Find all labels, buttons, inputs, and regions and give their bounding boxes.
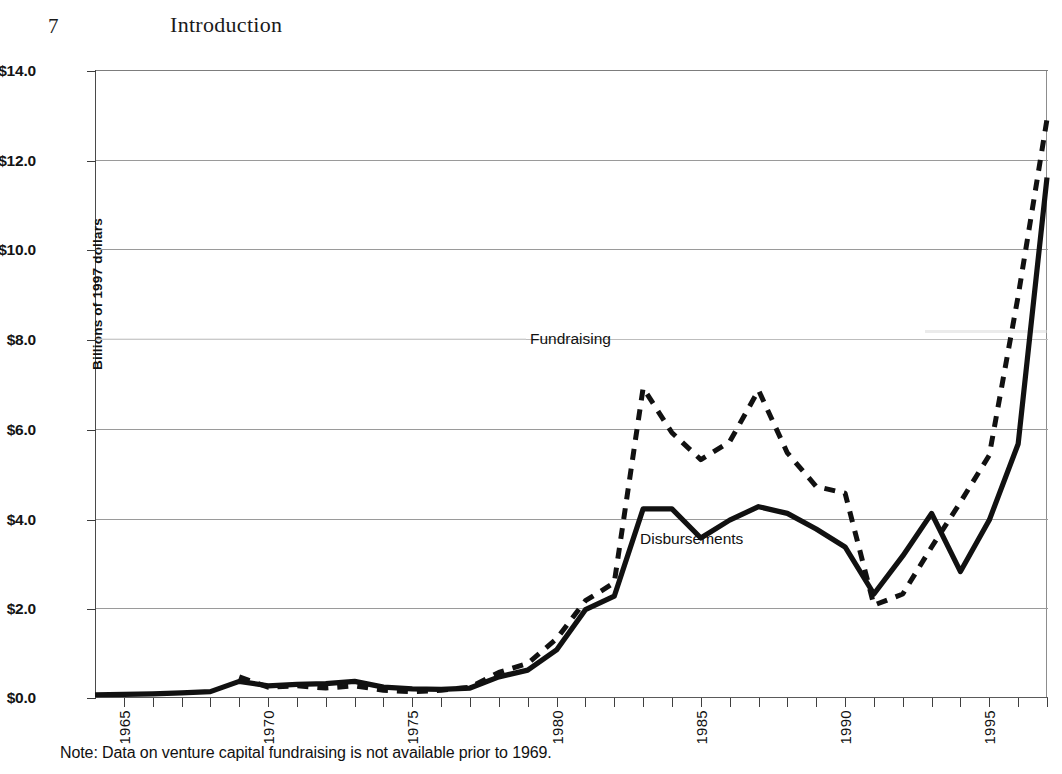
x-tick-1973 [355, 698, 356, 707]
x-tick-1982 [614, 698, 615, 707]
ytick-label-12: $12.0 [0, 152, 36, 170]
gridline-6: $6.0 [96, 429, 1048, 430]
x-tick-label-1975: 1975 [404, 710, 421, 745]
series-label-disbursements: Disbursements [640, 530, 743, 548]
x-tick-1984 [672, 698, 673, 707]
x-tick-1969 [239, 698, 240, 707]
ytick-label-0: $0.0 [0, 689, 36, 707]
x-tick-1979 [528, 698, 529, 707]
x-tick-1995 [989, 698, 990, 707]
x-tick-1965 [124, 698, 125, 707]
x-tick-label-1970: 1970 [260, 710, 277, 745]
scan-artifact [925, 330, 1047, 333]
x-tick-label-1980: 1980 [549, 710, 566, 745]
ytick-label-8: $8.0 [0, 331, 36, 349]
x-tick-1972 [326, 698, 327, 707]
ytick-label-2: $2.0 [0, 600, 36, 618]
figure-note: Note: Data on venture capital fundraisin… [60, 744, 552, 762]
x-tick-1988 [787, 698, 788, 707]
x-tick-1997 [1047, 698, 1048, 707]
x-tick-label-1985: 1985 [693, 710, 710, 745]
x-tick-1992 [903, 698, 904, 707]
ytick-label-10: $10.0 [0, 241, 36, 259]
series-label-fundraising: Fundraising [530, 330, 611, 348]
plot-area: Billions of 1997 dollars $14.0 $12.0 $10… [95, 70, 1047, 698]
x-tick-1981 [585, 698, 586, 707]
x-tick-1993 [932, 698, 933, 707]
x-tick-1989 [816, 698, 817, 707]
figure-venture-capital-chart: Billions of 1997 dollars $14.0 $12.0 $10… [0, 0, 1062, 774]
x-tick-1968 [210, 698, 211, 707]
ytick-mark-4 [87, 520, 96, 521]
x-tick-1985 [701, 698, 702, 707]
gridline-2: $2.0 [96, 608, 1048, 609]
ytick-mark-2 [87, 609, 96, 610]
x-tick-1974 [383, 698, 384, 707]
ytick-mark-8 [87, 340, 96, 341]
gridline-4: $4.0 [96, 519, 1048, 520]
x-tick-1991 [874, 698, 875, 707]
gridline-14: $14.0 [96, 70, 1048, 71]
x-tick-1996 [1018, 698, 1019, 707]
x-tick-1986 [730, 698, 731, 707]
x-tick-1980 [557, 698, 558, 707]
x-tick-1971 [297, 698, 298, 707]
x-tick-1975 [412, 698, 413, 707]
x-tick-1994 [960, 698, 961, 707]
ytick-mark-12 [87, 161, 96, 162]
x-tick-1983 [643, 698, 644, 707]
x-tick-label-1990: 1990 [837, 710, 854, 745]
ytick-label-4: $4.0 [0, 511, 36, 529]
x-tick-1966 [153, 698, 154, 707]
x-tick-1987 [759, 698, 760, 707]
x-tick-label-1965: 1965 [116, 710, 133, 745]
x-tick-1976 [441, 698, 442, 707]
gridline-12: $12.0 [96, 160, 1048, 161]
x-tick-1978 [499, 698, 500, 707]
page-canvas: 7 Introduction Billions of 1997 dollars … [0, 0, 1062, 774]
scan-artifact [96, 338, 526, 340]
x-tick-1970 [268, 698, 269, 707]
x-tick-label-1995: 1995 [981, 710, 998, 745]
ytick-label-6: $6.0 [0, 421, 36, 439]
ytick-mark-6 [87, 430, 96, 431]
ytick-mark-10 [87, 250, 96, 251]
y-axis-title: Billions of 1997 dollars [90, 110, 105, 370]
gridline-10: $10.0 [96, 249, 1048, 250]
x-tick-1977 [470, 698, 471, 707]
x-tick-1990 [845, 698, 846, 707]
x-axis: 1965197019751980198519901995 [95, 698, 1047, 707]
ytick-label-14: $14.0 [0, 62, 36, 80]
x-tick-1967 [182, 698, 183, 707]
ytick-mark-14 [87, 71, 96, 72]
